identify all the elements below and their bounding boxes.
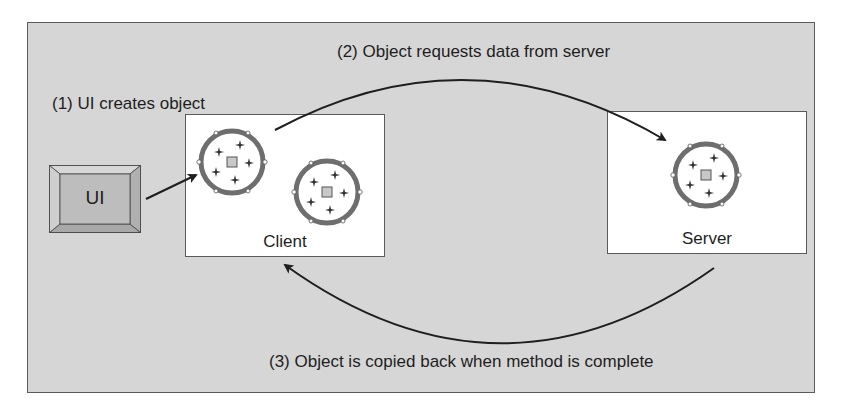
arrow-ui-to-client bbox=[146, 175, 196, 199]
arrow-client-to-server bbox=[275, 80, 665, 140]
server-object-icon bbox=[671, 144, 741, 206]
client-object-1-icon bbox=[197, 131, 267, 193]
diagram-overlay bbox=[0, 0, 853, 413]
arrow-server-to-client bbox=[285, 265, 714, 343]
client-object-2-icon bbox=[292, 161, 362, 223]
